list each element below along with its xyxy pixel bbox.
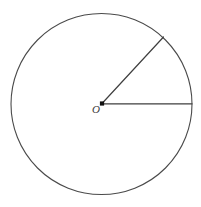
center-point-label: O bbox=[92, 104, 100, 115]
radius-upper-right bbox=[102, 37, 164, 104]
geometry-canvas bbox=[0, 0, 201, 207]
center-point-O bbox=[100, 101, 104, 105]
geometry-figure: O bbox=[0, 0, 201, 207]
